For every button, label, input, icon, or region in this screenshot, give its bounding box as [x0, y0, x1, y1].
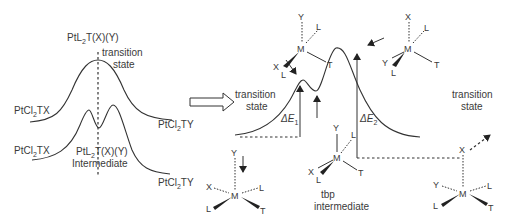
- svg-text:L: L: [487, 181, 492, 191]
- svg-text:M: M: [404, 44, 412, 54]
- svg-text:T: T: [488, 203, 494, 213]
- svg-text:M: M: [231, 191, 239, 201]
- top-right-species: PtCl2TY: [158, 119, 194, 132]
- top-left-species: PtCl2TX: [14, 105, 50, 118]
- ts2-pointer-arrow: [368, 38, 384, 45]
- tbp-label-line2: intermediate: [314, 201, 369, 212]
- bottom-left-species: PtCl2TX: [14, 145, 50, 158]
- svg-text:L: L: [316, 22, 321, 32]
- ts1-structure: Y L M X L T: [273, 12, 333, 80]
- svg-text:Y: Y: [333, 123, 339, 133]
- svg-text:L: L: [391, 68, 396, 78]
- svg-text:L: L: [281, 70, 286, 80]
- ts2-structure: X L M Y L T: [382, 12, 440, 78]
- bottom-right-species: PtCl2TY: [158, 177, 194, 190]
- top-ts-label-line2: state: [113, 59, 135, 70]
- svg-text:L: L: [351, 130, 356, 140]
- svg-text:T: T: [434, 60, 440, 70]
- ts1-label-line2: state: [246, 101, 268, 112]
- reactant-structure: Y X M L L T: [206, 148, 266, 216]
- svg-text:L: L: [316, 175, 321, 185]
- svg-text:Y: Y: [433, 180, 439, 190]
- delta-e1-label: ΔE1: [280, 113, 298, 126]
- svg-text:X: X: [273, 62, 279, 72]
- svg-text:L: L: [433, 201, 438, 211]
- svg-text:M: M: [297, 44, 305, 54]
- product-structure: X Y M L L T: [433, 135, 494, 213]
- svg-text:L: L: [206, 204, 211, 214]
- svg-text:T: T: [327, 60, 333, 70]
- svg-text:L: L: [259, 183, 264, 193]
- single-barrier-curve: [30, 60, 172, 122]
- tbp-structure: Y L M X L T: [308, 123, 364, 185]
- top-center-label: PtL2T(X)(Y): [67, 32, 119, 45]
- ts1-label-line1: transition: [235, 89, 276, 100]
- right-panel: transition state transition state ΔE1 ΔE…: [206, 12, 494, 216]
- svg-text:Y: Y: [231, 148, 237, 158]
- svg-text:X: X: [405, 12, 411, 22]
- svg-text:Y: Y: [298, 12, 304, 22]
- left-panel: PtL2T(X)(Y) transition state PtCl2TX PtC…: [14, 32, 194, 190]
- svg-text:T: T: [358, 168, 364, 178]
- svg-text:M: M: [459, 189, 467, 199]
- tbp-label-line1: tbp: [321, 189, 335, 200]
- svg-text:T: T: [260, 206, 266, 216]
- svg-text:X: X: [459, 145, 465, 155]
- svg-text:Y: Y: [382, 58, 388, 68]
- reaction-energy-diagram: PtL2T(X)(Y) transition state PtCl2TX PtC…: [0, 0, 509, 219]
- svg-text:M: M: [333, 153, 341, 163]
- hollow-transition-arrow: [190, 93, 234, 111]
- svg-text:X: X: [308, 167, 314, 177]
- svg-text:L: L: [424, 23, 429, 33]
- svg-text:X: X: [206, 182, 212, 192]
- ts2-label-line2: state: [461, 101, 483, 112]
- bottom-intermediate-label: Intermediate: [72, 158, 128, 169]
- top-ts-label-line1: transition: [102, 47, 143, 58]
- ts2-label-line1: transition: [452, 89, 493, 100]
